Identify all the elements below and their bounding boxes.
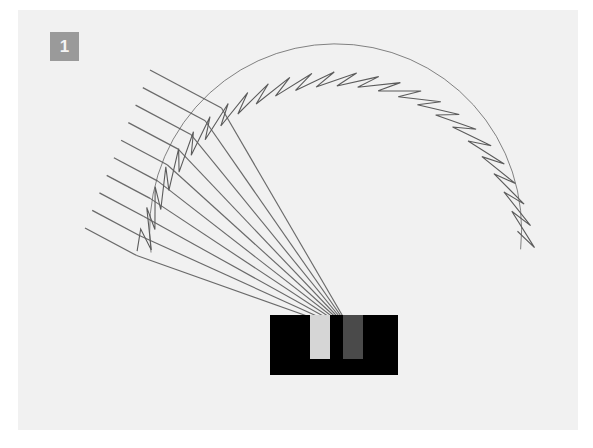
panel-number-badge: 1 [50, 32, 79, 61]
reflected-ray [150, 198, 352, 332]
incident-ray [143, 88, 205, 121]
incident-ray [136, 105, 191, 134]
incident-ray [128, 123, 178, 149]
serrated-arc-profile [137, 72, 534, 251]
reflected-ray [167, 165, 352, 332]
incident-rays-group [85, 70, 222, 255]
serrated-arc-group [137, 44, 534, 253]
incident-ray [121, 140, 167, 165]
light-notch [310, 315, 330, 359]
incident-ray [107, 175, 150, 198]
reflected-ray [191, 134, 352, 332]
optics-diagram-svg [18, 10, 578, 430]
incident-ray [114, 158, 158, 181]
converging-rays-group [137, 108, 352, 332]
absorber-block [270, 315, 398, 375]
absorber-block-group [270, 315, 398, 375]
reflected-ray [222, 108, 353, 332]
reflected-ray [144, 217, 352, 333]
focal-notch [343, 315, 363, 359]
incident-ray [150, 70, 222, 108]
arc-root-guide [150, 44, 522, 253]
incident-ray [92, 210, 139, 235]
figure-canvas: 1 [18, 10, 578, 430]
figure-root: 1 [0, 0, 593, 448]
incident-ray [99, 193, 143, 217]
reflected-ray [205, 121, 352, 332]
incident-ray [85, 228, 137, 255]
reflected-ray [178, 149, 352, 332]
